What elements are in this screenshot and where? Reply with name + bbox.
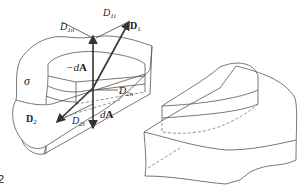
figure-number-fragment: 2 [0, 173, 4, 185]
block-front-face [22, 140, 46, 154]
pillbox-top [48, 52, 145, 83]
right-pillbox-top [162, 63, 258, 118]
sigma-label: σ [24, 74, 31, 88]
neg-dA-label: −dA [66, 61, 87, 73]
dA-label: dA [100, 108, 114, 120]
right-surface-outline [144, 66, 297, 184]
D1t-label: D1t [102, 7, 117, 20]
D2t-label: D2t [71, 115, 86, 128]
D2-label: D2 [26, 113, 37, 126]
D1n-label: D1n [59, 21, 75, 34]
D1t-component [96, 22, 128, 38]
left-panel: σ D1t D1 D1n −dA D2n dA D2 D2t [13, 7, 152, 154]
D1-label: D1 [130, 20, 141, 33]
right-panel [144, 63, 297, 184]
boundary-condition-diagram: σ D1t D1 D1n −dA D2n dA D2 D2t [0, 0, 307, 196]
